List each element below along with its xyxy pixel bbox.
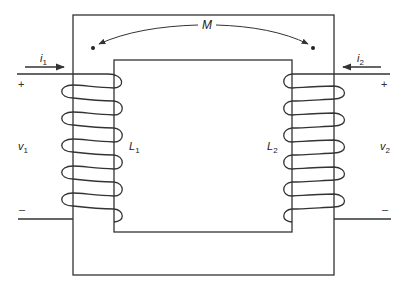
mutual-label: M: [202, 18, 212, 32]
i2-label: i2: [357, 52, 364, 67]
L1-label: L1: [129, 140, 140, 155]
i1-label: i1: [40, 52, 47, 67]
transformer-core: [73, 15, 334, 275]
polarity-dot-secondary: [311, 46, 315, 50]
transformer-diagram: M i1 i2 v1 v2 L1 L2 + + – –: [0, 0, 406, 289]
secondary-coil: [284, 74, 345, 222]
mutual-arrow-left: [99, 25, 198, 44]
core-outer-edge: [73, 15, 334, 275]
secondary-minus-sign: –: [382, 203, 389, 215]
mutual-arrow-right: [216, 25, 308, 44]
polarity-dot-primary: [91, 46, 95, 50]
core-window: [114, 60, 292, 232]
v2-label: v2: [380, 140, 391, 155]
primary-winding: [17, 67, 122, 222]
L2-label: L2: [267, 140, 278, 155]
v1-label: v1: [18, 140, 29, 155]
primary-plus-sign: +: [18, 78, 24, 90]
primary-minus-sign: –: [19, 203, 26, 215]
secondary-plus-sign: +: [381, 78, 387, 90]
primary-coil: [62, 74, 123, 222]
secondary-winding: [284, 67, 391, 222]
